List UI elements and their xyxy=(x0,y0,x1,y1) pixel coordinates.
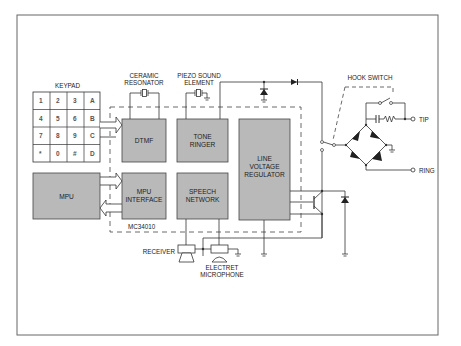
key-c: C xyxy=(90,132,95,139)
svg-text:CERAMIC: CERAMIC xyxy=(129,72,158,79)
keypad-title: KEYPAD xyxy=(55,82,81,89)
telephone-block-diagram: MC34010 KEYPAD 1 2 3 A 4 5 6 B 7 8 9 C *… xyxy=(0,0,461,346)
key-d: D xyxy=(90,150,95,157)
svg-text:RECEIVER: RECEIVER xyxy=(143,248,176,255)
svg-text:HOOK SWITCH: HOOK SWITCH xyxy=(347,74,393,81)
ring-label: RING xyxy=(419,167,435,174)
key-b: B xyxy=(90,115,95,122)
key-0: 0 xyxy=(56,150,60,157)
svg-text:LINE: LINE xyxy=(257,155,272,162)
mpu-interface-block: MPU INTERFACE xyxy=(122,173,166,219)
ring-terminal[interactable] xyxy=(411,168,415,172)
chip-label: MC34010 xyxy=(128,223,156,230)
key-5: 5 xyxy=(56,115,60,122)
svg-text:SPEECH: SPEECH xyxy=(189,188,216,195)
key-hash: # xyxy=(73,150,77,157)
svg-text:DTMF: DTMF xyxy=(135,137,153,144)
svg-text:RINGER: RINGER xyxy=(190,141,216,148)
svg-text:NETWORK: NETWORK xyxy=(186,196,220,203)
svg-text:PIEZO SOUND: PIEZO SOUND xyxy=(177,72,221,79)
key-a: A xyxy=(90,97,95,104)
key-6: 6 xyxy=(73,115,77,122)
tip-label: TIP xyxy=(419,116,429,123)
dtmf-block: DTMF xyxy=(122,119,166,162)
svg-text:MPU: MPU xyxy=(59,193,74,200)
speech-network-block: SPEECH NETWORK xyxy=(177,173,228,219)
key-2: 2 xyxy=(56,97,60,104)
svg-text:RESONATOR: RESONATOR xyxy=(124,79,164,86)
key-1: 1 xyxy=(39,97,43,104)
key-4: 4 xyxy=(39,115,43,122)
mpu-block: MPU xyxy=(33,173,100,219)
key-8: 8 xyxy=(56,132,60,139)
svg-text:ELECTRET: ELECTRET xyxy=(206,264,239,271)
svg-text:MICROPHONE: MICROPHONE xyxy=(200,271,243,278)
svg-text:REGULATOR: REGULATOR xyxy=(244,171,285,178)
keypad: KEYPAD 1 2 3 A 4 5 6 B 7 8 9 C * 0 # D xyxy=(33,82,100,162)
tone-ringer-block: TONE RINGER xyxy=(177,119,228,162)
key-9: 9 xyxy=(73,132,77,139)
tip-terminal[interactable] xyxy=(411,117,415,121)
svg-text:ELEMENT: ELEMENT xyxy=(184,79,214,86)
svg-text:INTERFACE: INTERFACE xyxy=(125,196,163,203)
svg-text:VOLTAGE: VOLTAGE xyxy=(249,163,280,170)
svg-text:MPU: MPU xyxy=(137,188,152,195)
key-3: 3 xyxy=(73,97,77,104)
line-voltage-regulator-block: LINE VOLTAGE REGULATOR xyxy=(239,119,290,220)
key-7: 7 xyxy=(39,132,43,139)
speaker-icon xyxy=(179,253,194,262)
svg-text:TONE: TONE xyxy=(193,133,212,140)
